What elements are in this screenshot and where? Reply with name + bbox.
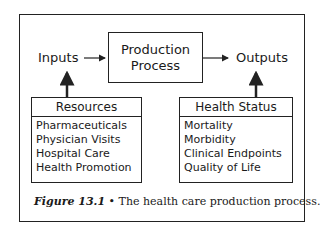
health-status-item: Morbidity [184,133,292,147]
process-line-2: Process [131,58,180,74]
production-process-box: Production Process [108,32,203,83]
resource-item: Physician Visits [36,133,141,147]
figure-label: Figure 13.1 [34,195,105,208]
resource-item: Health Promotion [36,161,141,175]
health-status-title: Health Status [180,98,292,117]
health-status-item: Clinical Endpoints [184,147,292,161]
resource-item: Hospital Care [36,147,141,161]
resource-item: Pharmaceuticals [36,119,141,133]
health-status-box: Health Status Mortality Morbidity Clinic… [179,97,293,183]
resources-list: Pharmaceuticals Physician Visits Hospita… [32,117,141,175]
health-status-item: Quality of Life [184,161,292,175]
inputs-label: Inputs [38,51,78,65]
health-status-list: Mortality Morbidity Clinical Endpoints Q… [180,117,292,175]
figure-caption: Figure 13.1 • The health care production… [34,195,320,208]
outputs-label: Outputs [236,51,288,65]
resources-box: Resources Pharmaceuticals Physician Visi… [31,97,142,183]
caption-bullet: • [109,195,116,208]
caption-text: The health care production process. [119,195,321,208]
resources-title: Resources [32,98,141,117]
process-line-1: Production [121,42,190,58]
health-status-item: Mortality [184,119,292,133]
